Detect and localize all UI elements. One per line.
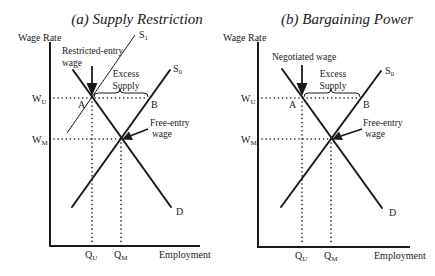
supply-s0-label: S0 [173,63,183,76]
arrow-head-icon [297,83,308,96]
y-axis-label: Wage Rate [223,32,267,43]
x-axis-label: Employment [374,250,426,261]
free-entry-label-line1: Free-entry [150,118,190,128]
negotiated-wage-label: Negotiated wage [272,52,336,62]
panel-bargaining-power: (b) Bargaining Power Wage Rate S0 D WU W… [223,11,426,263]
panel-title: (a) Supply Restriction [71,11,203,28]
qty-market-label: QM [114,249,128,262]
restricted-entry-label-line2: wage [62,58,82,68]
point-a-label: A [78,99,86,110]
qty-union-label: QU [85,249,97,262]
point-b-label: B [363,99,370,110]
restricted-entry-label-line1: Restricted-entry [62,46,123,56]
excess-supply-label-line1: Excess [113,69,140,79]
panel-title: (b) Bargaining Power [281,11,413,28]
wage-market-label: WM [241,134,257,147]
supply-s1-label: S1 [139,29,149,42]
excess-supply-label-line2: Supply [113,81,140,91]
point-b-label: B [151,99,158,110]
labor-market-diagrams: (a) Supply Restriction Wage Rate S1 S0 D… [0,0,435,276]
wage-upper-label: WU [241,93,256,106]
demand-label: D [389,207,396,218]
supply-s0-label: S0 [385,65,395,78]
wage-upper-label: WU [32,93,47,106]
free-entry-label-line1: Free-entry [363,118,403,128]
free-entry-arrow [130,129,148,136]
excess-supply-label-line2: Supply [320,81,347,91]
free-entry-arrow [341,129,362,136]
excess-supply-label-line1: Excess [320,69,347,79]
wage-market-label: WM [32,134,48,147]
free-entry-label-line2: wage [152,129,172,139]
y-axis-label: Wage Rate [18,32,62,43]
qty-market-label: QM [324,250,338,263]
x-axis-label: Employment [159,249,211,260]
demand-label: D [176,206,183,217]
free-entry-label-line2: wage [365,129,385,139]
point-a-label: A [289,99,297,110]
panel-supply-restriction: (a) Supply Restriction Wage Rate S1 S0 D… [18,11,211,262]
qty-union-label: QU [295,250,307,263]
